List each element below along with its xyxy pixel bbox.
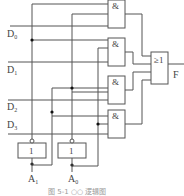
and-symbol: & [112,77,119,87]
figure-caption: 图 5-1 ○○ 逻辑图 [48,187,106,196]
and-gate-3: & [108,76,125,104]
d2-label: D2 [7,101,17,113]
gate2-a0-wire [98,48,108,124]
not-symbol: 1 [29,146,34,156]
junction-dot [70,86,73,89]
logic-diagram: D0 D1 D2 D3 & [0,0,184,196]
a1-not-wire [32,4,108,140]
and-gate-2: & [108,38,125,66]
output-label: F [173,69,179,80]
and-symbol: & [112,39,119,49]
junction-dot [50,110,53,113]
a0-not-wire [72,14,108,140]
not-gate-a0: 1 [58,139,86,158]
not-symbol: 1 [69,146,74,156]
and-gate-4: & [108,110,125,138]
data-input-labels: D0 D1 D2 D3 [7,28,17,131]
and-to-or-wires [125,14,151,124]
d0-label: D0 [7,28,17,40]
junction-dot [96,122,99,125]
and-symbol: & [112,1,119,11]
d3-label: D3 [7,119,17,131]
junction-dot [30,38,33,41]
not-gate-a1: 1 [18,139,46,158]
or-gate: ≥1 [151,52,168,84]
d1-label: D1 [7,64,17,76]
or-symbol: ≥1 [154,55,163,65]
a1-label: A1 [28,173,38,185]
data-input-lines [8,26,108,134]
and-gate-1: & [108,0,125,28]
a0-label: A0 [68,173,78,185]
and-symbol: & [112,111,119,121]
